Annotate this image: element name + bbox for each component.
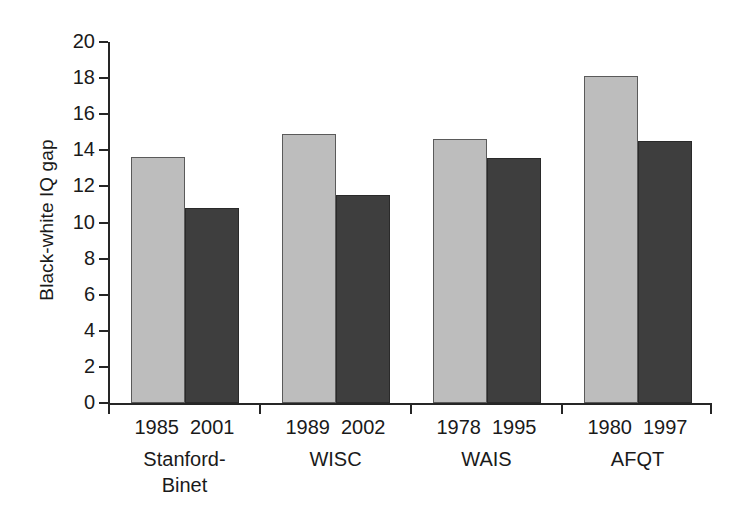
bar [131, 157, 185, 403]
bar [336, 195, 390, 403]
chart-figure: Black-white IQ gap 02468101214161820 198… [0, 0, 733, 519]
y-tick-label: 10 [73, 210, 95, 234]
x-group-label: 19801997AFQT [562, 414, 713, 472]
x-group-name-line2: Binet [109, 472, 260, 498]
y-tick-label: 6 [84, 282, 95, 306]
x-tick [108, 403, 110, 414]
x-tick [410, 403, 412, 414]
y-tick [99, 113, 108, 115]
y-tick [99, 330, 108, 332]
year-later: 2001 [190, 414, 235, 440]
y-tick-label: 4 [84, 318, 95, 342]
bar [185, 208, 239, 403]
year-earlier: 1989 [286, 414, 331, 440]
year-later: 1997 [643, 414, 688, 440]
year-earlier: 1980 [588, 414, 633, 440]
x-group-label: 19852001Stanford-Binet [109, 414, 260, 498]
y-tick-label: 14 [73, 137, 95, 161]
x-axis-labels: 19852001Stanford-Binet19892002WISC197819… [108, 414, 712, 519]
bar [638, 141, 692, 403]
y-tick [99, 41, 108, 43]
bar [433, 139, 487, 403]
x-tick [259, 403, 261, 414]
x-group-name: WAIS [411, 446, 562, 472]
y-tick [99, 222, 108, 224]
y-tick [99, 258, 108, 260]
x-group-years: 19781995 [411, 414, 562, 440]
y-tick-label: 16 [73, 101, 95, 125]
bars-layer [108, 42, 712, 403]
y-tick [99, 149, 108, 151]
x-group-years: 19852001 [109, 414, 260, 440]
x-tick-end [710, 403, 712, 414]
x-group-years: 19801997 [562, 414, 713, 440]
bar [282, 134, 336, 403]
year-later: 2002 [341, 414, 386, 440]
y-axis-label: Black-white IQ gap [30, 40, 64, 400]
y-tick [99, 77, 108, 79]
bar [584, 76, 638, 403]
y-tick-label: 12 [73, 173, 95, 197]
y-tick-label: 8 [84, 246, 95, 270]
year-later: 1995 [492, 414, 537, 440]
x-group-name: AFQT [562, 446, 713, 472]
plot-area: 02468101214161820 [108, 42, 712, 403]
y-tick [99, 185, 108, 187]
x-group-label: 19892002WISC [260, 414, 411, 472]
year-earlier: 1978 [437, 414, 482, 440]
year-earlier: 1985 [135, 414, 180, 440]
x-tick [561, 403, 563, 414]
x-group-name: WISC [260, 446, 411, 472]
y-tick [99, 366, 108, 368]
y-tick-label: 2 [84, 354, 95, 378]
y-tick [99, 402, 108, 404]
x-group-years: 19892002 [260, 414, 411, 440]
y-tick-label: 18 [73, 65, 95, 89]
y-tick-label: 0 [84, 390, 95, 414]
x-group-name: Stanford-Binet [109, 446, 260, 498]
y-tick-label: 20 [73, 29, 95, 53]
bar [487, 158, 541, 403]
y-tick [99, 294, 108, 296]
x-group-label: 19781995WAIS [411, 414, 562, 472]
